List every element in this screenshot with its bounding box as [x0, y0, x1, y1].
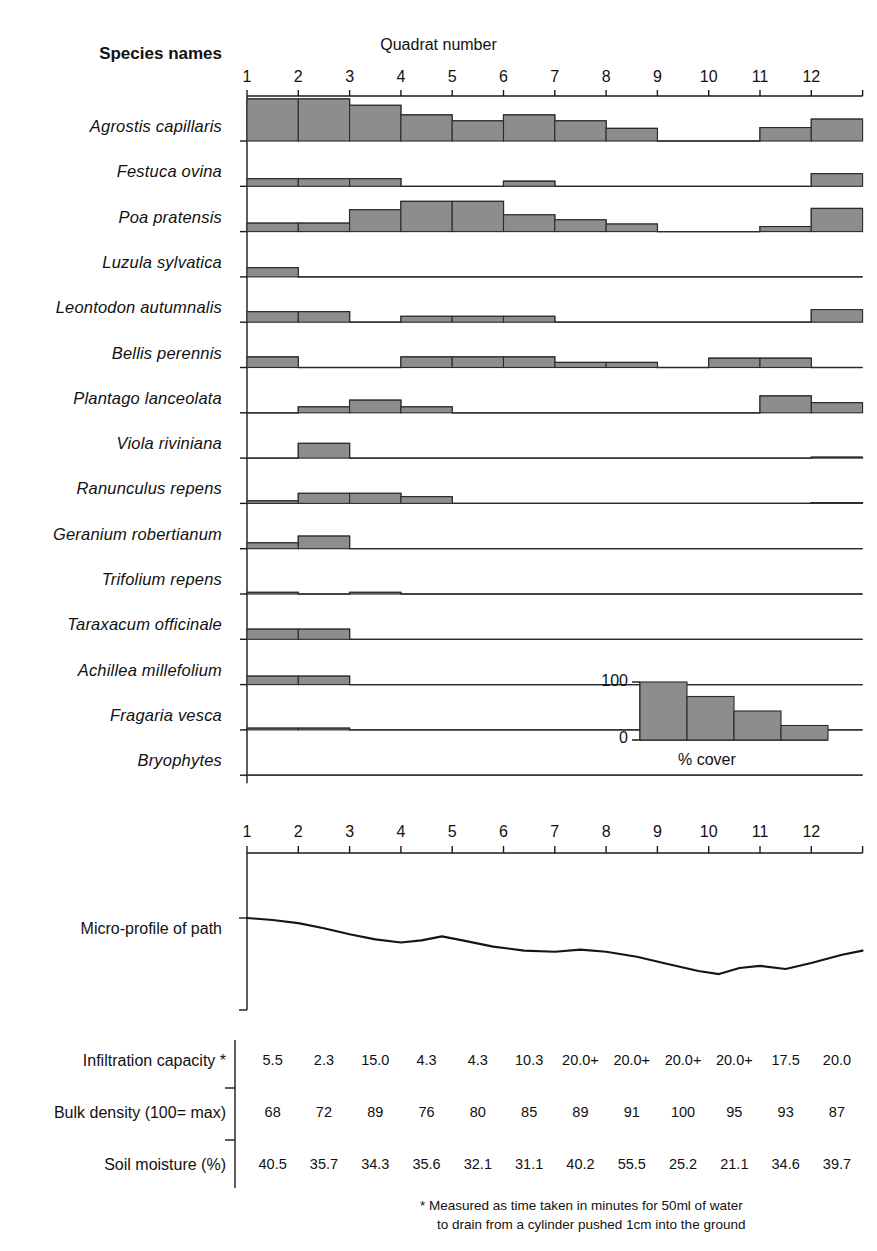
quadrat-tick-label-top: 11 — [740, 68, 780, 86]
quadrat-tick-label-top: 9 — [637, 68, 677, 86]
measurement-cell: 31.1 — [506, 1156, 552, 1172]
quadrat-tick-label-top: 10 — [689, 68, 729, 86]
measurement-cell: 85 — [506, 1104, 552, 1120]
measurement-cell: 95 — [711, 1104, 757, 1120]
species-bar — [298, 407, 349, 413]
micro-profile-label: Micro-profile of path — [0, 920, 222, 938]
quadrat-tick-label-top: 12 — [791, 68, 831, 86]
species-bar — [504, 181, 555, 186]
footnote-line-2: to drain from a cylinder pushed 1cm into… — [437, 1215, 745, 1234]
quadrat-tick-label-middle: 12 — [791, 823, 831, 841]
species-bar — [452, 201, 503, 231]
legend-caption: % cover — [678, 751, 736, 769]
species-bar — [555, 362, 606, 367]
species-bar — [298, 676, 349, 684]
species-bar — [401, 201, 452, 231]
quadrat-tick-label-middle: 8 — [586, 823, 626, 841]
species-bar — [247, 629, 298, 639]
measurement-cell: 89 — [352, 1104, 398, 1120]
quadrat-tick-label-middle: 10 — [689, 823, 729, 841]
species-label: Bellis perennis — [0, 344, 222, 363]
species-label: Poa pratensis — [0, 208, 222, 227]
species-bar — [811, 209, 862, 232]
measurement-cell: 100 — [660, 1104, 706, 1120]
measurement-cell: 4.3 — [404, 1052, 450, 1068]
measurement-cell: 5.5 — [250, 1052, 296, 1068]
figure-root: Species names Quadrat number 12345678910… — [0, 0, 877, 1251]
legend-value-top: 100 — [592, 672, 628, 690]
species-bar — [760, 227, 811, 232]
measurement-row-label: Infiltration capacity * — [0, 1052, 226, 1070]
measurement-cell: 35.7 — [301, 1156, 347, 1172]
quadrat-tick-label-top: 2 — [278, 68, 318, 86]
species-bar — [606, 128, 657, 141]
species-bar — [555, 121, 606, 141]
species-label: Ranunculus repens — [0, 479, 222, 498]
species-bar — [452, 121, 503, 141]
footnote-line-1: * Measured as time taken in minutes for … — [420, 1196, 743, 1215]
species-bar — [811, 310, 862, 323]
quadrat-tick-label-middle: 4 — [381, 823, 421, 841]
measurement-cell: 17.5 — [763, 1052, 809, 1068]
species-bar — [452, 316, 503, 322]
quadrat-tick-label-top: 1 — [227, 68, 267, 86]
measurement-cell: 4.3 — [455, 1052, 501, 1068]
quadrat-tick-label-top: 3 — [330, 68, 370, 86]
measurement-cell: 80 — [455, 1104, 501, 1120]
quadrat-tick-label-middle: 11 — [740, 823, 780, 841]
measurement-cell: 91 — [609, 1104, 655, 1120]
species-bar — [811, 119, 862, 141]
species-label: Achillea millefolium — [0, 661, 222, 680]
measurement-cell: 55.5 — [609, 1156, 655, 1172]
legend-bar — [781, 726, 828, 741]
species-bar — [504, 316, 555, 322]
species-bar — [247, 357, 298, 368]
measurement-cell: 76 — [404, 1104, 450, 1120]
measurement-cell: 39.7 — [814, 1156, 860, 1172]
species-bar — [401, 407, 452, 413]
measurement-cell: 20.0 — [814, 1052, 860, 1068]
measurement-cell: 34.3 — [352, 1156, 398, 1172]
species-bar — [350, 210, 401, 232]
species-bar — [247, 179, 298, 187]
quadrat-tick-label-middle: 2 — [278, 823, 318, 841]
species-bar — [247, 223, 298, 231]
species-bar — [247, 676, 298, 684]
species-bar — [709, 358, 760, 367]
species-bar — [298, 312, 349, 323]
species-bar — [452, 357, 503, 368]
species-bar — [298, 443, 349, 458]
measurement-cell: 20.0+ — [660, 1052, 706, 1068]
species-label: Bryophytes — [0, 751, 222, 770]
quadrat-tick-label-middle: 1 — [227, 823, 267, 841]
species-bar — [504, 215, 555, 232]
quadrat-tick-label-middle: 7 — [535, 823, 575, 841]
species-bar — [350, 179, 401, 187]
species-label: Fragaria vesca — [0, 706, 222, 725]
species-bar — [811, 403, 862, 413]
measurement-cell: 21.1 — [711, 1156, 757, 1172]
species-bar — [606, 362, 657, 367]
species-label: Festuca ovina — [0, 162, 222, 181]
species-bar — [811, 174, 862, 187]
measurement-cell: 10.3 — [506, 1052, 552, 1068]
species-bar — [555, 220, 606, 232]
species-label: Luzula sylvatica — [0, 253, 222, 272]
quadrat-tick-label-top: 5 — [432, 68, 472, 86]
species-bar — [760, 396, 811, 413]
measurement-cell: 72 — [301, 1104, 347, 1120]
measurement-cell: 20.0+ — [609, 1052, 655, 1068]
species-bar — [298, 99, 349, 141]
quadrat-tick-label-middle: 6 — [484, 823, 524, 841]
measurement-cell: 40.5 — [250, 1156, 296, 1172]
species-bar — [760, 128, 811, 141]
quadrat-tick-label-middle: 3 — [330, 823, 370, 841]
measurement-cell: 2.3 — [301, 1052, 347, 1068]
species-bar — [298, 493, 349, 503]
species-bar — [247, 543, 298, 549]
measurement-cell: 35.6 — [404, 1156, 450, 1172]
measurement-cell: 34.6 — [763, 1156, 809, 1172]
species-bar — [350, 400, 401, 413]
species-bar — [298, 629, 349, 639]
measurement-cell: 25.2 — [660, 1156, 706, 1172]
